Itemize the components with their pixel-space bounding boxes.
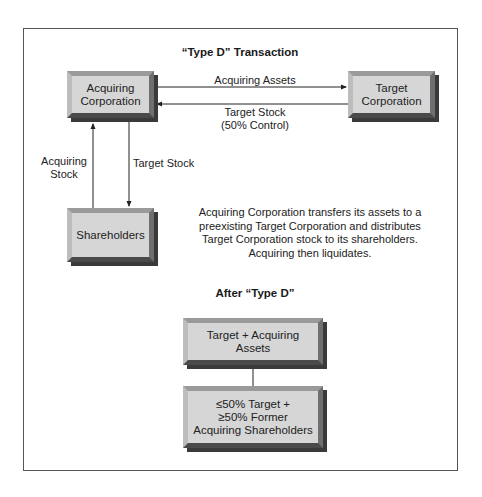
after-ownership-label-3: Acquiring Shareholders (193, 424, 313, 437)
edge-label-acquiring-stock-2: Stock (34, 168, 94, 181)
edge-label-acquiring-stock: Acquiring Stock (34, 155, 94, 181)
after-ownership-node: ≤50% Target + ≥50% Former Acquiring Shar… (183, 386, 323, 448)
target-corporation-node: Target Corporation (348, 71, 435, 118)
target-node-label-1: Target (361, 82, 421, 95)
shareholders-node-label: Shareholders (76, 229, 144, 242)
diagram-title: “Type D” Transaction (150, 46, 330, 58)
description-line-1: Acquiring Corporation transfers its asse… (190, 206, 430, 220)
after-assets-label-2: Assets (207, 342, 299, 355)
acquiring-node-label-1: Acquiring (80, 82, 140, 95)
after-ownership-label-1: ≤50% Target + (193, 398, 313, 411)
edge-label-target-stock-control-2: (50% Control) (190, 119, 320, 132)
after-title: After “Type D” (180, 287, 330, 299)
after-assets-node: Target + Acquiring Assets (183, 318, 323, 365)
description-line-3: Target Corporation stock to its sharehol… (190, 233, 430, 247)
edge-label-target-stock: Target Stock (133, 157, 203, 170)
edge-label-target-stock-control: Target Stock (50% Control) (190, 106, 320, 132)
after-assets-label-1: Target + Acquiring (207, 329, 299, 342)
acquiring-corporation-node: Acquiring Corporation (67, 71, 154, 118)
edge-label-acquiring-stock-1: Acquiring (34, 155, 94, 168)
acquiring-node-label-2: Corporation (80, 95, 140, 108)
edge-label-target-stock-control-1: Target Stock (190, 106, 320, 119)
transaction-description: Acquiring Corporation transfers its asse… (190, 206, 430, 260)
target-node-label-2: Corporation (361, 95, 421, 108)
edge-label-acquiring-assets: Acquiring Assets (190, 74, 320, 87)
after-ownership-label-2: ≥50% Former (193, 411, 313, 424)
description-line-4: Acquiring then liquidates. (190, 247, 430, 261)
shareholders-node: Shareholders (67, 208, 154, 262)
description-line-2: preexisting Target Corporation and distr… (190, 220, 430, 234)
